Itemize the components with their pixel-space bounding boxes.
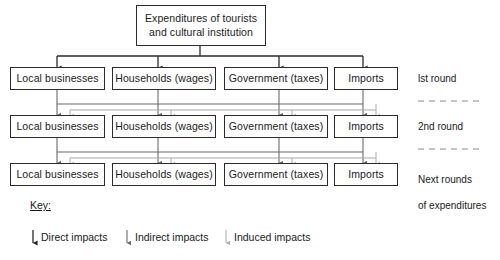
title-line-2: and cultural institution (149, 26, 253, 38)
connectors-title-to-round1 (57, 46, 363, 68)
node-round2-imports: Imports (334, 115, 398, 138)
node-round3-imports: Imports (334, 163, 398, 186)
round-label-3-line-2: of expenditures (418, 200, 486, 211)
key-title: Key: (30, 199, 51, 211)
connectors-round1-to-round2 (57, 90, 376, 116)
node-round2-government: Government (taxes) (224, 115, 328, 138)
round-label-3-line-1: Next rounds (418, 174, 472, 185)
round-label-2: 2nd round (418, 120, 463, 133)
node-round1-imports: Imports (334, 67, 398, 90)
node-round2-households: Households (wages) (112, 115, 216, 138)
node-round1-government: Government (taxes) (224, 67, 328, 90)
key-label-induced-impacts: Induced impacts (234, 231, 310, 243)
node-round1-local-businesses: Local businesses (10, 67, 105, 90)
key-label-direct-impacts: Direct impacts (41, 231, 108, 243)
node-expenditures-title: Expenditures of tourists and cultural in… (136, 5, 266, 46)
round-label-3: Next rounds of expenditures (418, 160, 486, 212)
node-round2-local-businesses: Local businesses (10, 115, 105, 138)
round-label-1: lst round (418, 72, 456, 85)
diagram-canvas: Expenditures of tourists and cultural in… (0, 0, 500, 260)
node-round3-local-businesses: Local businesses (10, 163, 105, 186)
node-round1-households: Households (wages) (112, 67, 216, 90)
connectors-round2-to-round3 (57, 138, 376, 164)
key-label-indirect-impacts: Indirect impacts (135, 231, 209, 243)
node-round3-households: Households (wages) (112, 163, 216, 186)
node-round3-government: Government (taxes) (224, 163, 328, 186)
title-line-1: Expenditures of tourists (145, 12, 257, 24)
